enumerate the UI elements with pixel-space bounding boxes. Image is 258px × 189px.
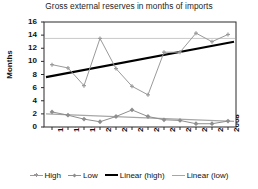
legend-label: Low <box>83 171 98 180</box>
cross-marker-icon <box>30 171 43 179</box>
legend-item-linear-low[interactable]: Linear (low) <box>172 171 229 180</box>
legend-label: High <box>45 171 61 180</box>
thin-line-icon <box>172 171 185 179</box>
legend-label: Linear (high) <box>120 171 165 180</box>
plot-frame <box>44 22 236 127</box>
chart-container: Gross external reserves in months of imp… <box>0 0 258 189</box>
diamond-marker-icon <box>68 171 81 179</box>
legend-label: Linear (low) <box>187 171 229 180</box>
legend-item-high[interactable]: High <box>30 171 61 180</box>
legend-item-linear-high[interactable]: Linear (high) <box>105 171 165 180</box>
chart-legend: HighLowLinear (high)Linear (low) <box>0 168 258 182</box>
plot-area <box>0 0 258 189</box>
thick-line-icon <box>105 171 118 179</box>
legend-item-low[interactable]: Low <box>68 171 98 180</box>
